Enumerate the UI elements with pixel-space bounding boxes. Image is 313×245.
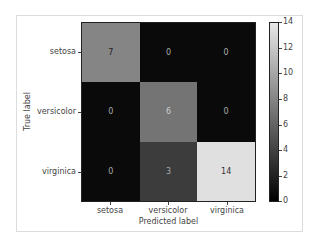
colorbar-tick-4: 4: [283, 145, 288, 154]
colorbar-tick-mark: [279, 22, 282, 23]
cell-versicolor-setosa: 0: [82, 82, 140, 141]
xtick-label-setosa: setosa: [80, 206, 140, 215]
cell-versicolor-virginica: 0: [197, 82, 255, 141]
colorbar-tick-12: 12: [283, 43, 293, 52]
cell-setosa-virginica: 0: [197, 23, 255, 82]
colorbar-tick-mark: [279, 125, 282, 126]
colorbar-tick-mark: [279, 73, 282, 74]
ytick-mark: [78, 112, 81, 113]
colorbar-tick-mark: [279, 176, 282, 177]
cell-virginica-virginica: 14: [197, 142, 255, 201]
cell-setosa-versicolor: 0: [140, 23, 198, 82]
ytick-label-setosa: setosa: [16, 47, 76, 56]
colorbar-tick-0: 0: [283, 196, 288, 205]
ytick-label-virginica: virginica: [16, 167, 76, 176]
colorbar-tick-6: 6: [283, 120, 288, 129]
xtick-label-virginica: virginica: [197, 206, 257, 215]
cell-versicolor-versicolor: 6: [140, 82, 198, 141]
colorbar-tick-14: 14: [283, 17, 293, 26]
cell-virginica-setosa: 0: [82, 142, 140, 201]
x-axis-label: Predicted label: [81, 217, 256, 226]
cell-setosa-setosa: 7: [82, 23, 140, 82]
y-axis-label: True label: [23, 82, 32, 142]
colorbar-tick-mark: [279, 150, 282, 151]
colorbar-tick-10: 10: [283, 68, 293, 77]
xtick-mark: [168, 202, 169, 205]
cell-virginica-versicolor: 3: [140, 142, 198, 201]
colorbar-tick-mark: [279, 201, 282, 202]
colorbar-tick-8: 8: [283, 94, 288, 103]
xtick-mark: [227, 202, 228, 205]
ytick-mark: [78, 172, 81, 173]
colorbar-tick-mark: [279, 99, 282, 100]
colorbar-tick-2: 2: [283, 171, 288, 180]
colorbar-tick-mark: [279, 48, 282, 49]
colorbar: [269, 22, 279, 202]
confusion-matrix-plot: 7 0 0 0 6 0 0 3 14: [81, 22, 256, 202]
ytick-mark: [78, 52, 81, 53]
xtick-label-versicolor: versicolor: [138, 206, 198, 215]
xtick-mark: [110, 202, 111, 205]
